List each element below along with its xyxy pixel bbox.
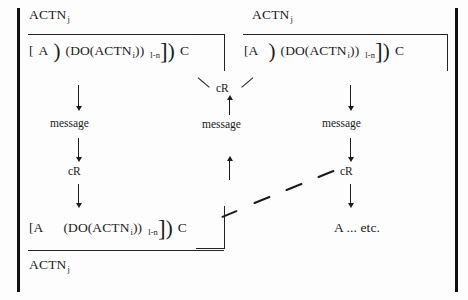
page-rule-left (17, 8, 20, 292)
middle-tick-left (197, 77, 209, 88)
left-result-do-open: (DO(ACTN (63, 220, 129, 235)
left-footer-label: ACTN (29, 257, 67, 272)
right-header-subscript: j (290, 14, 294, 24)
dash-segment-3 (285, 183, 303, 192)
left-arrow-1 (78, 85, 79, 107)
left-formula: [A)(DO(ACTNi))l-n])C (29, 44, 189, 59)
left-result-c: C (178, 220, 187, 235)
right-formula-open-bracket: [A (244, 43, 258, 58)
left-arrow-2 (78, 138, 79, 158)
right-formula-close-bracket: ] (375, 39, 383, 64)
left-arrow-3 (78, 184, 79, 204)
right-header: ACTNj (252, 8, 293, 23)
page-rule-right (455, 8, 458, 292)
left-result-corner-bracket (196, 206, 225, 249)
left-formula-close-bracket: ] (160, 39, 168, 64)
left-header-label: ACTN (29, 7, 67, 22)
middle-label-message: message (202, 119, 241, 131)
left-formula-c: C (180, 43, 189, 58)
dash-segment-2 (253, 196, 271, 205)
diagram-canvas: ACTNj [A)(DO(ACTNi))l-n])C message cR [A… (0, 0, 468, 300)
right-label-cR: cR (340, 166, 353, 178)
right-formula-c: C (395, 43, 404, 58)
left-result-formula: [A(DO(ACTNi))l-n])C (29, 221, 187, 236)
left-footer-overline (28, 250, 224, 251)
right-formula-paren1: ) (268, 39, 275, 63)
right-formula-paren2: ) (383, 39, 390, 63)
right-terminal: A ... etc. (334, 221, 380, 235)
left-header-underline (28, 34, 224, 35)
middle-arrow-up-2 (229, 160, 230, 180)
middle-arrow-up-1 (229, 99, 230, 115)
left-footer-subscript: j (67, 264, 71, 274)
right-formula-do-close: )) (350, 43, 359, 58)
left-formula-a: A (39, 43, 49, 58)
right-formula-corner-bracket (430, 34, 448, 71)
left-formula-paren2: ) (168, 39, 175, 63)
right-label-message: message (322, 118, 361, 130)
left-result-close-bracket: ] (158, 216, 166, 241)
left-header: ACTNj (29, 8, 70, 23)
left-result-paren2: ) (166, 216, 173, 240)
left-footer: ACTNj (29, 258, 70, 273)
left-label-cR: cR (68, 166, 81, 178)
dash-segment-4 (317, 170, 335, 179)
left-result-range-subscript: l-n (147, 227, 158, 237)
left-formula-open-bracket: [ (29, 43, 34, 58)
left-header-subscript: j (67, 14, 71, 24)
middle-tick-right (241, 77, 253, 88)
left-label-message: message (50, 118, 89, 130)
right-formula-range-subscript: l-n (364, 50, 375, 60)
left-result-do-close: )) (133, 220, 142, 235)
right-arrow-2 (350, 138, 351, 158)
right-formula: [A)(DO(ACTNi))l-n])C (244, 44, 404, 59)
middle-label-cR: cR (216, 83, 229, 95)
right-formula-do-open: (DO(ACTN (281, 43, 347, 58)
right-header-underline (243, 34, 447, 35)
left-result-open-bracket: [A (29, 220, 43, 235)
left-formula-do-open: (DO(ACTN (66, 43, 132, 58)
left-formula-paren1: ) (53, 39, 60, 63)
right-arrow-1 (350, 85, 351, 107)
right-header-label: ACTN (252, 7, 290, 22)
left-formula-corner-bracket (196, 34, 225, 71)
left-formula-range-subscript: l-n (149, 50, 160, 60)
right-arrow-3 (350, 184, 351, 204)
left-formula-do-close: )) (135, 43, 144, 58)
